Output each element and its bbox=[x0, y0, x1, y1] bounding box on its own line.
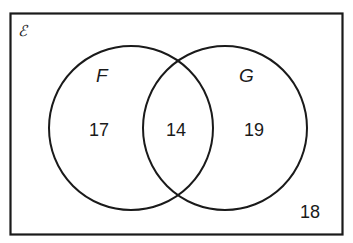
set-g-label: G bbox=[239, 65, 254, 86]
venn-diagram: ℰ F G 17 14 19 18 bbox=[0, 0, 353, 243]
f-only-count: 17 bbox=[89, 120, 109, 140]
set-f-label: F bbox=[96, 65, 109, 86]
universal-set-symbol: ℰ bbox=[18, 22, 29, 40]
outside-count: 18 bbox=[300, 202, 320, 222]
set-f-circle bbox=[49, 46, 213, 210]
g-only-count: 19 bbox=[244, 120, 264, 140]
intersection-count: 14 bbox=[166, 120, 186, 140]
